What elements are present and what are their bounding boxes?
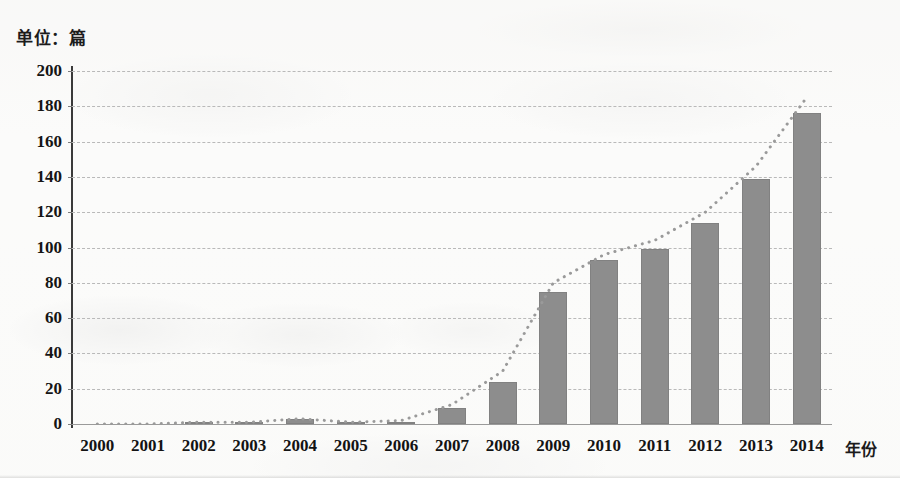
y-tick-label: 160 (0, 132, 62, 152)
x-tick-label-2005: 2005 (334, 436, 368, 456)
bar-slot (579, 71, 630, 424)
bar-2005[interactable] (337, 422, 365, 424)
bar-slot (477, 71, 528, 424)
bar-2002[interactable] (185, 422, 213, 424)
y-tick-label: 20 (0, 379, 62, 399)
bar-slot (173, 71, 224, 424)
bar-2003[interactable] (235, 422, 263, 424)
bar-slot (731, 71, 782, 424)
x-tick-label-2002: 2002 (182, 436, 216, 456)
bar-slot (224, 71, 275, 424)
y-tick-label: 60 (0, 308, 62, 328)
bar-2010[interactable] (590, 260, 618, 424)
bar-slot (72, 71, 123, 424)
x-tick-label-2000: 2000 (80, 436, 114, 456)
bar-slot (629, 71, 680, 424)
bar-2013[interactable] (742, 179, 770, 424)
x-tick-label-2013: 2013 (739, 436, 773, 456)
bar-series (72, 71, 832, 424)
bar-slot (781, 71, 832, 424)
bar-2012[interactable] (691, 223, 719, 424)
bar-slot (275, 71, 326, 424)
bar-slot (325, 71, 376, 424)
x-axis-ticks: 2000200120022003200420052006200720082009… (72, 436, 832, 460)
bar-2008[interactable] (489, 382, 517, 424)
chart-page: 单位：篇 020406080100120140160180200 2000200… (0, 0, 900, 478)
x-tick-label-2006: 2006 (384, 436, 418, 456)
x-tick-label-2003: 2003 (232, 436, 266, 456)
x-tick-label-2011: 2011 (638, 436, 671, 456)
x-tick-label-2008: 2008 (486, 436, 520, 456)
y-tick-label: 120 (0, 202, 62, 222)
y-tick-label: 200 (0, 61, 62, 81)
bar-2009[interactable] (539, 292, 567, 424)
y-tick-label: 100 (0, 238, 62, 258)
y-tick-label: 140 (0, 167, 62, 187)
bar-slot (528, 71, 579, 424)
bar-2011[interactable] (641, 249, 669, 424)
bar-slot (376, 71, 427, 424)
y-tick-label: 180 (0, 96, 62, 116)
bar-slot (427, 71, 478, 424)
y-tick-label: 0 (0, 414, 62, 434)
y-tick-label: 80 (0, 273, 62, 293)
gridline (72, 424, 832, 425)
y-tick-label: 40 (0, 343, 62, 363)
x-tick-label-2004: 2004 (283, 436, 317, 456)
bar-2007[interactable] (438, 408, 466, 424)
x-tick-label-2010: 2010 (587, 436, 621, 456)
x-axis-title: 年份 (845, 436, 877, 460)
x-tick-label-2001: 2001 (131, 436, 165, 456)
plot-area (72, 71, 832, 424)
x-tick-label-2009: 2009 (536, 436, 570, 456)
bar-2004[interactable] (286, 419, 314, 424)
bar-slot (123, 71, 174, 424)
bar-2006[interactable] (387, 422, 415, 424)
x-tick-label-2007: 2007 (435, 436, 469, 456)
x-tick-label-2014: 2014 (790, 436, 824, 456)
bar-2014[interactable] (793, 113, 821, 424)
bar-slot (680, 71, 731, 424)
x-tick-label-2012: 2012 (688, 436, 722, 456)
